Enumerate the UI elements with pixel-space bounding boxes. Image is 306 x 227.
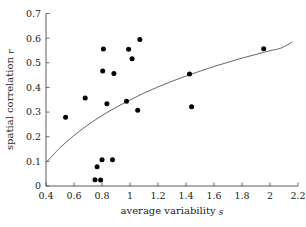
y-tick-label: 0.1 bbox=[26, 156, 41, 167]
data-point bbox=[135, 108, 140, 113]
data-point bbox=[95, 164, 100, 169]
x-axis: 0.40.60.811.21.41.61.822.2 bbox=[38, 183, 305, 201]
data-point bbox=[93, 177, 98, 182]
data-point bbox=[189, 104, 194, 109]
data-point bbox=[187, 71, 192, 76]
data-point bbox=[124, 99, 129, 104]
x-axis-ticks bbox=[46, 183, 298, 187]
y-tick-label: 0.3 bbox=[26, 106, 41, 117]
x-axis-tick-labels: 0.40.60.811.21.41.61.822.2 bbox=[38, 190, 305, 201]
data-point bbox=[101, 46, 106, 51]
y-tick-label: 0.2 bbox=[26, 131, 41, 142]
x-axis-title: average variability s bbox=[121, 205, 224, 217]
y-axis-title-symbol: r bbox=[6, 49, 16, 54]
data-point bbox=[130, 56, 135, 61]
data-point bbox=[100, 157, 105, 162]
data-point bbox=[83, 96, 88, 101]
scatter-plot-figure: 00.10.20.30.40.50.60.7 0.40.60.811.21.41… bbox=[0, 0, 306, 227]
x-tick-label: 0.8 bbox=[94, 190, 109, 201]
x-tick-label: 2.2 bbox=[290, 190, 305, 201]
data-point bbox=[261, 46, 266, 51]
y-tick-label: 0.4 bbox=[26, 82, 41, 93]
data-point bbox=[100, 68, 105, 73]
data-point bbox=[63, 115, 68, 120]
x-tick-label: 1 bbox=[127, 190, 133, 201]
y-axis-tick-labels: 00.10.20.30.40.50.60.7 bbox=[26, 8, 41, 192]
data-point bbox=[104, 101, 109, 106]
y-tick-label: 0.7 bbox=[26, 8, 41, 19]
fitted-curve bbox=[46, 42, 292, 163]
x-tick-label: 0.4 bbox=[38, 190, 53, 201]
x-axis-title-text: average variability bbox=[121, 205, 219, 216]
x-tick-label: 0.6 bbox=[66, 190, 81, 201]
data-point bbox=[137, 37, 142, 42]
data-point bbox=[126, 47, 131, 52]
x-tick-label: 2 bbox=[267, 190, 273, 201]
y-axis-title-text: spatial correlation bbox=[4, 54, 15, 150]
x-tick-label: 1.2 bbox=[150, 190, 165, 201]
data-point bbox=[111, 71, 116, 76]
y-tick-label: 0.5 bbox=[26, 57, 41, 68]
data-points-group bbox=[63, 37, 266, 183]
data-point bbox=[98, 178, 103, 183]
x-axis-title-symbol: s bbox=[219, 207, 224, 217]
y-tick-label: 0.6 bbox=[26, 33, 41, 44]
x-tick-label: 1.6 bbox=[206, 190, 221, 201]
plot-canvas: 00.10.20.30.40.50.60.7 0.40.60.811.21.41… bbox=[0, 0, 306, 227]
x-tick-label: 1.8 bbox=[234, 190, 249, 201]
x-tick-label: 1.4 bbox=[178, 190, 193, 201]
data-point bbox=[110, 157, 115, 162]
y-axis-title: spatial correlation r bbox=[4, 49, 16, 150]
y-axis: 00.10.20.30.40.50.60.7 bbox=[26, 8, 50, 192]
